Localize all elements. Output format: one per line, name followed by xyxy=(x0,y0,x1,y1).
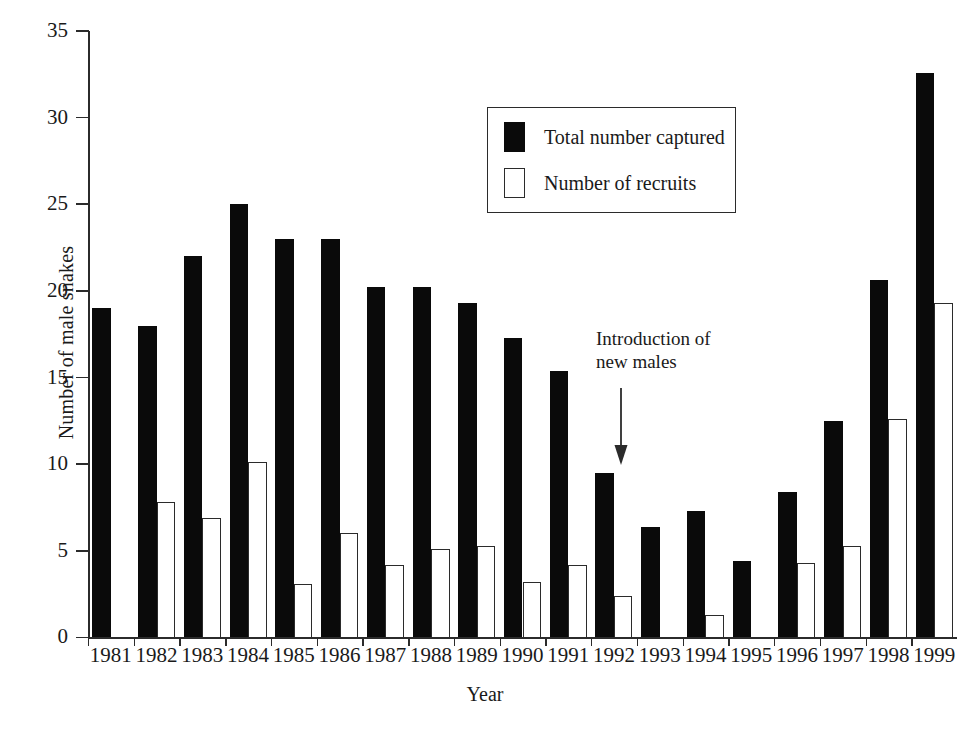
bar-recruits-1996 xyxy=(797,563,816,638)
y-tick-label-20: 20 xyxy=(10,280,68,301)
open-square-icon xyxy=(504,168,525,198)
bar-recruits-1988 xyxy=(431,549,450,637)
bar-total-1995 xyxy=(733,561,752,637)
bar-recruits-1982 xyxy=(157,502,176,637)
bar-total-1998 xyxy=(870,280,889,637)
y-tick-5 xyxy=(76,550,89,552)
bar-recruits-1999 xyxy=(934,303,953,637)
y-tick-label-5: 5 xyxy=(10,540,68,561)
bar-recruits-1986 xyxy=(340,533,359,637)
chart-legend: Total number captured Number of recruits xyxy=(487,107,736,213)
bar-total-1990 xyxy=(504,338,523,638)
down-arrow-icon xyxy=(612,388,630,466)
bar-total-1997 xyxy=(824,421,843,638)
bar-total-1984 xyxy=(230,204,249,637)
annotation-label: Introduction of new males xyxy=(596,327,711,373)
bar-recruits-1992 xyxy=(614,596,633,638)
y-tick-label-15: 15 xyxy=(10,367,68,388)
legend-label-recruits: Number of recruits xyxy=(544,172,696,195)
legend-label-total: Total number captured xyxy=(544,126,725,149)
bar-recruits-1984 xyxy=(248,462,267,637)
bar-total-1983 xyxy=(184,256,203,637)
bar-total-1994 xyxy=(687,511,706,637)
bar-recruits-1987 xyxy=(385,565,404,638)
x-tick-label-1999: 1999 xyxy=(904,645,964,666)
bar-total-1981 xyxy=(92,308,111,637)
bar-recruits-1985 xyxy=(294,584,313,638)
bar-total-1989 xyxy=(458,303,477,637)
bar-recruits-1989 xyxy=(477,546,496,638)
bar-total-1993 xyxy=(641,527,660,638)
bar-total-1987 xyxy=(367,287,386,637)
y-tick-30 xyxy=(76,117,89,119)
bar-recruits-1994 xyxy=(705,615,724,638)
y-tick-label-35: 35 xyxy=(10,20,68,41)
bar-total-1999 xyxy=(916,73,935,638)
filled-square-icon xyxy=(504,122,525,152)
bar-recruits-1991 xyxy=(568,565,587,638)
y-tick-10 xyxy=(76,463,89,465)
y-tick-15 xyxy=(76,377,89,379)
y-tick-label-0: 0 xyxy=(10,626,68,647)
y-tick-label-10: 10 xyxy=(10,453,68,474)
bar-chart-figure: Number of male snakes 05101520253035 198… xyxy=(0,0,970,730)
legend-entry-total: Total number captured xyxy=(504,122,725,152)
x-axis-line xyxy=(88,637,957,639)
bar-recruits-1998 xyxy=(888,419,907,637)
bar-total-1982 xyxy=(138,326,157,638)
bar-total-1986 xyxy=(321,239,340,637)
bar-recruits-1983 xyxy=(202,518,221,638)
bar-total-1985 xyxy=(275,239,294,637)
bar-total-1996 xyxy=(778,492,797,638)
y-tick-25 xyxy=(76,203,89,205)
y-axis-line xyxy=(88,31,90,639)
bar-total-1991 xyxy=(550,371,569,638)
legend-entry-recruits: Number of recruits xyxy=(504,168,696,198)
y-tick-35 xyxy=(76,30,89,32)
bar-total-1992 xyxy=(595,473,614,638)
y-tick-label-25: 25 xyxy=(10,193,68,214)
y-tick-20 xyxy=(76,290,89,292)
y-tick-label-30: 30 xyxy=(10,107,68,128)
bar-recruits-1997 xyxy=(843,546,862,638)
x-axis-title: Year xyxy=(0,683,970,706)
bar-recruits-1990 xyxy=(523,582,542,637)
bar-total-1988 xyxy=(413,287,432,637)
